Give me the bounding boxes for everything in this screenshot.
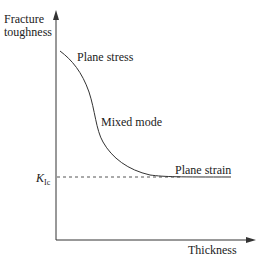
- y-axis: [53, 10, 59, 240]
- plane-stress-label: Plane stress: [77, 50, 133, 64]
- toughness-curve: [60, 51, 231, 177]
- fracture-toughness-diagram: [0, 0, 264, 264]
- mixed-mode-label: Mixed mode: [101, 115, 162, 129]
- y-axis-label-line2: toughness: [4, 25, 52, 39]
- plane-strain-label: Plane strain: [175, 163, 231, 177]
- x-axis-label: Thickness: [188, 243, 237, 257]
- x-axis-arrow-icon: [246, 237, 256, 243]
- y-axis-arrow-icon: [53, 10, 59, 20]
- y-axis-label-line1: Fracture: [4, 12, 44, 26]
- kic-label: KIc: [36, 171, 50, 190]
- kic-label-main: K: [36, 171, 44, 185]
- kic-label-sub: Ic: [44, 178, 50, 187]
